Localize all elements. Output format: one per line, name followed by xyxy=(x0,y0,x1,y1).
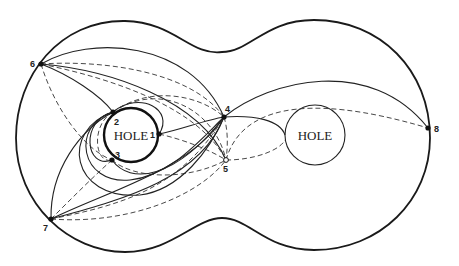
point-8-label: 8 xyxy=(434,124,439,134)
loops-left-hole xyxy=(79,96,226,196)
point-3-label: 3 xyxy=(115,150,120,160)
point-6 xyxy=(38,61,43,66)
point-3 xyxy=(109,157,114,162)
point-7-label: 7 xyxy=(43,223,48,233)
right-hole-label: HOLE xyxy=(298,128,333,143)
curves-right xyxy=(224,81,428,160)
point-4-label: 4 xyxy=(225,104,230,114)
curves-from-6 xyxy=(41,48,226,160)
left-hole-label: HOLE xyxy=(114,128,149,143)
point-1-label: 1 xyxy=(150,130,155,140)
point-5 xyxy=(224,158,229,163)
point-2 xyxy=(110,109,115,114)
point-4 xyxy=(221,114,226,119)
point-2-label: 2 xyxy=(114,117,119,127)
domain-outline xyxy=(16,20,430,252)
two-hole-domain-diagram: HOLE HOLE xyxy=(0,0,459,266)
point-7 xyxy=(48,216,53,221)
point-6-label: 6 xyxy=(30,59,35,69)
point-5-label: 5 xyxy=(223,164,228,174)
point-1 xyxy=(156,131,161,136)
point-8 xyxy=(425,125,430,130)
